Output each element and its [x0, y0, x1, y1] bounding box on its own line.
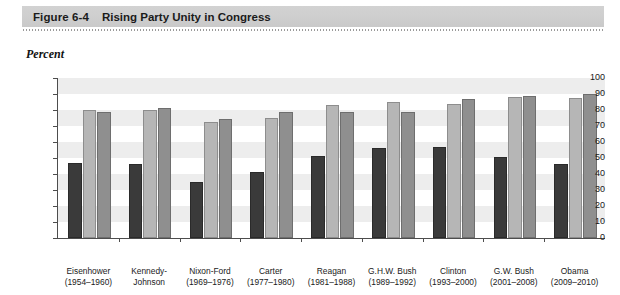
y-axis-tick-label: 100: [581, 72, 605, 82]
y-axis-tick-mark: [53, 110, 58, 111]
x-axis-tick-mark: [544, 238, 545, 242]
y-axis-tick-mark: [53, 174, 58, 175]
bar: [68, 163, 82, 238]
bar: [158, 108, 172, 238]
y-axis-tick-label: 20: [581, 200, 605, 210]
bar: [97, 112, 111, 238]
bar: [219, 119, 233, 238]
y-axis-tick-mark: [53, 206, 58, 207]
x-axis-tick-mark: [180, 238, 181, 242]
y-axis-tick-mark: [53, 126, 58, 127]
y-axis-tick-mark: [53, 190, 58, 191]
y-axis-tick-mark: [53, 158, 58, 159]
y-axis-tick-mark: [53, 78, 58, 79]
y-axis-tick-mark: [53, 238, 58, 239]
bar: [83, 110, 97, 238]
x-axis-group-label-line: (2009–2010): [534, 277, 615, 288]
x-axis-tick-mark: [301, 238, 302, 242]
y-axis-tick-mark: [53, 142, 58, 143]
bar: [190, 182, 204, 238]
y-axis-tick-label: 90: [581, 88, 605, 98]
y-axis-tick-label: 70: [581, 120, 605, 130]
y-axis-tick-label: 10: [581, 216, 605, 226]
figure-title: Rising Party Unity in Congress: [102, 11, 271, 23]
x-axis-tick-mark: [483, 238, 484, 242]
chart-plot-area: [58, 78, 605, 238]
x-axis-tick-mark: [362, 238, 363, 242]
bar: [401, 112, 415, 238]
bar: [523, 96, 537, 238]
bar: [326, 105, 340, 238]
bar: [372, 148, 386, 238]
y-axis-tick-mark: [53, 222, 58, 223]
y-axis-tick-label: 50: [581, 152, 605, 162]
bar: [554, 164, 568, 238]
x-axis-tick-mark: [119, 238, 120, 242]
bar: [279, 112, 293, 238]
figure-number: Figure 6-4: [33, 11, 89, 23]
bar: [129, 164, 143, 238]
bar: [340, 112, 354, 238]
bar: [508, 97, 522, 238]
bar: [204, 122, 218, 238]
x-axis-group-label-line: Obama: [534, 266, 615, 277]
x-axis-tick-mark: [240, 238, 241, 242]
dotted-rule-divider: [22, 29, 604, 31]
bar: [311, 156, 325, 238]
bar: [433, 147, 447, 238]
bar: [143, 110, 157, 238]
y-axis-caption: Percent: [26, 47, 64, 62]
bar: [447, 104, 461, 238]
chart-plot-wrapper: 0102030405060708090100: [27, 78, 605, 263]
bar: [265, 118, 279, 238]
y-axis-tick-label: 60: [581, 136, 605, 146]
background-band: [58, 78, 605, 94]
x-axis-tick-mark: [423, 238, 424, 242]
bar: [462, 99, 476, 238]
bar: [494, 157, 508, 238]
y-axis-tick-label: 0: [581, 232, 605, 242]
x-axis-group-label: Obama(2009–2010): [534, 266, 615, 287]
y-axis-tick-label: 40: [581, 168, 605, 178]
figure-header-banner: Figure 6-4 Rising Party Unity in Congres…: [22, 6, 604, 27]
x-axis-line: [57, 238, 605, 239]
bar: [387, 102, 401, 238]
y-axis-tick-label: 80: [581, 104, 605, 114]
bar: [250, 172, 264, 238]
y-axis-tick-mark: [53, 94, 58, 95]
y-axis-tick-label: 30: [581, 184, 605, 194]
